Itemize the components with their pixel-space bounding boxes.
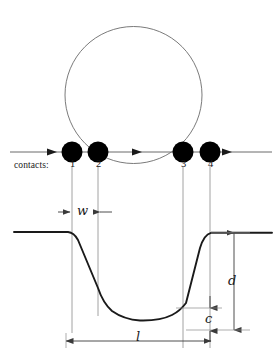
dimension-label-w: w (77, 204, 88, 217)
contact-number-2: 2 (94, 159, 103, 170)
dimension-label-c: c (205, 312, 212, 325)
scan-direction-line (10, 148, 272, 155)
dimension-label-d: d (228, 274, 236, 287)
scan-arrow-2 (132, 148, 142, 155)
trench-profile-diagram: contacts: 1 2 3 4 w d c l (0, 0, 280, 355)
contact-number-3: 3 (179, 159, 188, 170)
dimension-label-l: l (136, 330, 140, 343)
contact-number-4: 4 (206, 159, 215, 170)
dimension-d (186, 233, 250, 330)
diagram-canvas (0, 0, 280, 355)
contact-number-1: 1 (68, 159, 77, 170)
contacts-label: contacts: (14, 161, 49, 171)
scan-arrow-3 (222, 148, 232, 155)
scan-arrow-1 (47, 148, 57, 155)
